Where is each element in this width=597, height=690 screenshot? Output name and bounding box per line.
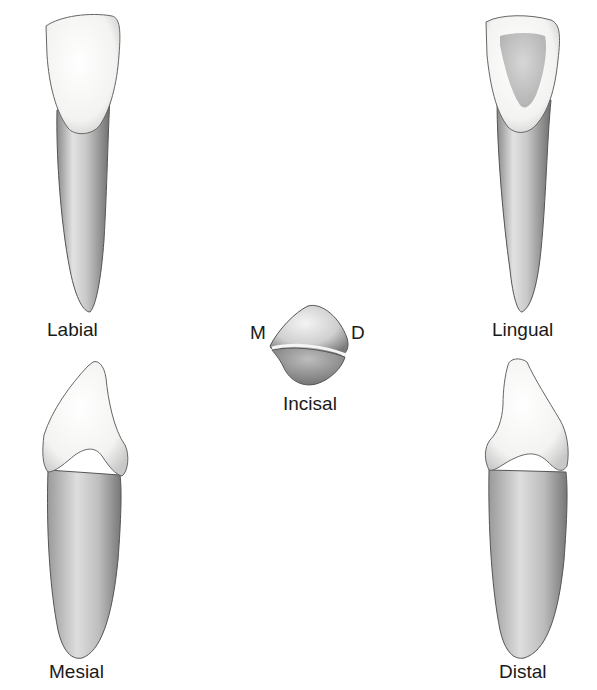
mesial-view-tooth	[43, 362, 128, 659]
distal-view-tooth	[485, 359, 568, 658]
labial-view-tooth	[46, 14, 120, 312]
incisal-view-tooth	[270, 305, 348, 385]
tooth-illustrations	[0, 0, 597, 690]
label-lingual: Lingual	[492, 320, 553, 339]
label-distal-side: D	[351, 323, 365, 342]
label-labial: Labial	[47, 320, 98, 339]
label-mesial: Mesial	[49, 662, 104, 681]
tooth-views-figure: Labial Lingual Incisal Mesial Distal M D	[0, 0, 597, 690]
label-mesial-side: M	[250, 323, 266, 342]
label-distal: Distal	[499, 662, 547, 681]
label-incisal: Incisal	[283, 394, 337, 413]
lingual-view-tooth	[486, 16, 560, 312]
